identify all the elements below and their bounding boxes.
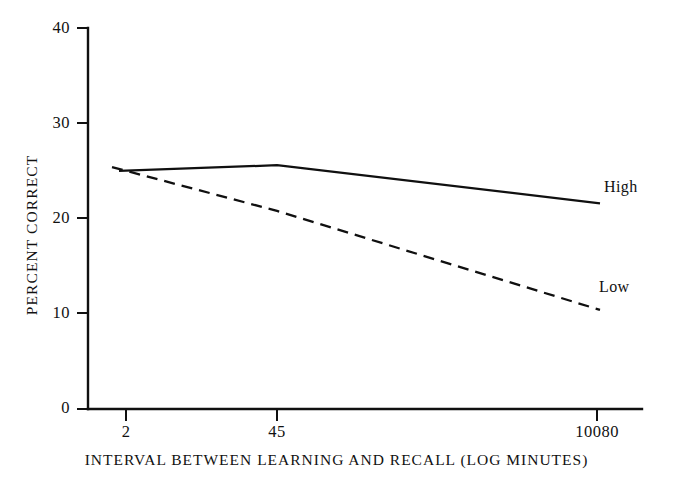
series-line-low xyxy=(112,167,600,310)
series-line-high xyxy=(119,165,600,203)
series-label-low: Low xyxy=(599,279,630,295)
line-chart-canvas xyxy=(0,0,673,481)
y-tick-label-0: 0 xyxy=(36,400,70,417)
x-tick-label-45: 45 xyxy=(247,424,307,441)
y-axis-label: PERCENT CORRECT xyxy=(24,155,40,315)
y-tick-label-40: 40 xyxy=(36,20,70,37)
series-label-high: High xyxy=(604,179,638,195)
y-tick-label-30: 30 xyxy=(36,115,70,132)
y-tick-label-10: 10 xyxy=(36,305,70,322)
x-tick-label-10080: 10080 xyxy=(552,424,642,441)
y-tick-label-20: 20 xyxy=(36,210,70,227)
x-axis-label: INTERVAL BETWEEN LEARNING AND RECALL (LO… xyxy=(0,452,673,468)
x-tick-label-2: 2 xyxy=(96,424,156,441)
chart-figure: 40 30 20 10 0 2 45 10080 PERCENT CORRECT… xyxy=(0,0,673,481)
